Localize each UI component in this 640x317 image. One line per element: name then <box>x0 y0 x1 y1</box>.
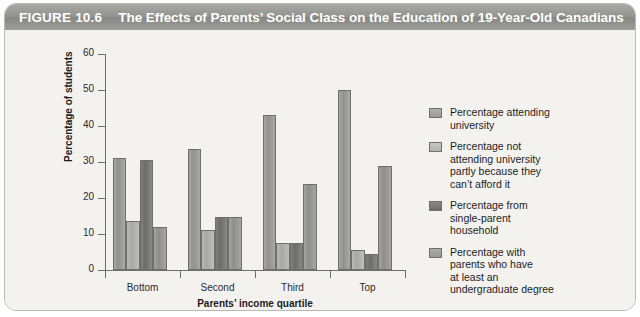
legend-swatch <box>429 201 442 211</box>
legend-swatch <box>429 248 442 258</box>
x-axis-group-label: Third <box>281 282 304 293</box>
bar <box>188 149 202 270</box>
y-axis-tick-label: 40 <box>83 119 94 130</box>
y-axis-tick: 60 <box>98 54 105 55</box>
y-axis-tick-label: 20 <box>83 191 94 202</box>
y-axis-tick: 40 <box>98 126 105 127</box>
y-axis-tick: 0 <box>98 270 105 271</box>
legend-label: Percentage from single-parent household <box>450 199 528 237</box>
figure-card: FIGURE 10.6 The Effects of Parents’ Soci… <box>4 3 636 311</box>
bar <box>290 243 304 270</box>
x-axis-tick <box>255 270 256 278</box>
bar <box>113 158 127 270</box>
bar <box>201 230 215 270</box>
x-axis-tick <box>405 270 406 278</box>
plot-area: 0102030405060 BottomSecondThirdTop <box>105 54 405 270</box>
bar <box>276 243 290 270</box>
bar <box>140 160 154 270</box>
bar <box>228 217 242 270</box>
bar <box>338 90 352 270</box>
x-axis-group-label: Second <box>201 282 235 293</box>
y-axis-tick: 30 <box>98 162 105 163</box>
legend-item: Percentage from single-parent household <box>429 199 629 237</box>
y-axis-tick-label: 0 <box>88 263 94 274</box>
y-axis-line <box>105 54 106 270</box>
x-axis-group-label: Bottom <box>127 282 159 293</box>
legend-item: Percentage not attending university part… <box>429 140 629 190</box>
bar <box>263 115 277 270</box>
legend-item: Percentage with parents who have at leas… <box>429 246 629 296</box>
legend-swatch <box>429 108 442 118</box>
figure-number: FIGURE 10.6 <box>19 10 102 25</box>
y-axis-tick: 50 <box>98 90 105 91</box>
bar <box>303 184 317 270</box>
plot-body: Percentage of students Parents’ income q… <box>5 30 636 311</box>
x-axis-tick <box>105 270 106 278</box>
legend-label: Percentage not attending university part… <box>450 140 541 190</box>
bar <box>153 227 167 270</box>
legend-label: Percentage with parents who have at leas… <box>450 246 554 296</box>
y-axis-tick-label: 10 <box>83 227 94 238</box>
legend-label: Percentage attending university <box>450 106 550 131</box>
chart-legend: Percentage attending universityPercentag… <box>429 106 629 305</box>
figure-header: FIGURE 10.6 The Effects of Parents’ Soci… <box>5 4 636 30</box>
bar <box>378 166 392 270</box>
bar <box>351 250 365 270</box>
x-axis-tick <box>330 270 331 278</box>
x-axis-tick <box>180 270 181 278</box>
x-axis-group-label: Top <box>359 282 375 293</box>
bar <box>215 217 229 270</box>
bar <box>365 254 379 270</box>
y-axis-title: Percentage of students <box>63 51 74 162</box>
y-axis-tick: 10 <box>98 234 105 235</box>
y-axis-tick-label: 50 <box>83 83 94 94</box>
y-axis-tick: 20 <box>98 198 105 199</box>
y-axis-tick-label: 30 <box>83 155 94 166</box>
y-axis-tick-label: 60 <box>83 47 94 58</box>
figure-title: The Effects of Parents’ Social Class on … <box>118 10 623 25</box>
legend-swatch <box>429 142 442 152</box>
legend-item: Percentage attending university <box>429 106 629 131</box>
bar <box>126 221 140 270</box>
x-axis-title: Parents’ income quartile <box>197 298 313 309</box>
